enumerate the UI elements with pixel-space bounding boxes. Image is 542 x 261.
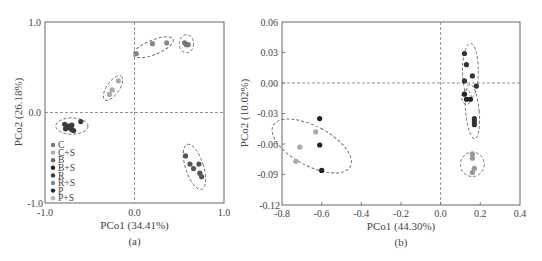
x-axis-label-a: PCo1 (34.41%) — [100, 219, 169, 232]
data-point — [183, 153, 188, 158]
legend-marker — [51, 158, 55, 162]
data-point — [78, 119, 83, 124]
points-b — [293, 51, 479, 175]
data-point — [317, 142, 322, 147]
confidence-ellipse — [463, 84, 481, 140]
data-point — [470, 156, 475, 161]
chart-b: 0.06 0.03 0.00 -0.03 -0.06 -0.09 -0.12 -… — [238, 17, 526, 250]
data-point — [472, 122, 477, 127]
data-point — [69, 123, 74, 128]
y-ticks-a: 1.0 0.0 -1.0 — [27, 17, 43, 209]
legend-marker — [51, 196, 55, 200]
data-point — [464, 62, 469, 67]
data-point — [462, 78, 467, 83]
legend-marker — [51, 188, 55, 192]
x-tick: -0.6 — [314, 208, 330, 219]
data-point — [297, 144, 302, 149]
data-point — [191, 166, 196, 171]
x-tick: 0.4 — [514, 208, 527, 219]
points-a — [62, 40, 204, 179]
data-point — [474, 83, 479, 88]
data-point — [293, 159, 298, 164]
caption-a: (a) — [128, 235, 141, 248]
y-axis-label-b: PCo2 (10.02%) — [238, 78, 251, 147]
x-tick: -0.4 — [353, 208, 369, 219]
confidence-ellipse — [131, 33, 176, 63]
legend-marker — [51, 173, 55, 177]
y-tick: 0.06 — [261, 17, 279, 28]
x-tick: 1.0 — [218, 207, 231, 218]
y-tick: -0.03 — [257, 108, 278, 119]
y-tick: 1.0 — [29, 17, 42, 28]
data-point — [186, 42, 191, 47]
data-point — [199, 174, 204, 179]
legend-marker — [51, 143, 55, 147]
x-tick: -1.0 — [37, 207, 53, 218]
y-tick: 0.0 — [29, 107, 42, 118]
y-ticks-b: 0.06 0.03 0.00 -0.03 -0.06 -0.09 -0.12 — [257, 17, 280, 211]
chart-a: 1.0 0.0 -1.0 -1.0 0.0 1.0 PCo1 (34.41%) … — [12, 17, 230, 248]
figure: 1.0 0.0 -1.0 -1.0 0.0 1.0 PCo1 (34.41%) … — [0, 0, 542, 261]
data-point — [116, 78, 121, 83]
y-tick: 0.00 — [261, 78, 279, 89]
data-point — [187, 161, 192, 166]
y-tick: -0.09 — [257, 169, 278, 180]
data-point — [134, 51, 139, 56]
y-tick: 0.03 — [261, 47, 279, 58]
x-tick: 0.2 — [474, 208, 487, 219]
legend-a: CC+SBB+SRR+SPP+S — [51, 140, 75, 203]
data-point — [319, 168, 324, 173]
caption-b: (b) — [395, 236, 408, 249]
x-axis-label-b: PCo1 (44.30%) — [367, 220, 436, 233]
y-axis-label-a: PCo2 (26.18%) — [12, 77, 25, 146]
x-ticks-b: -0.8 -0.6 -0.4 -0.2 0.0 0.2 0.4 — [274, 208, 526, 219]
data-point — [107, 92, 112, 97]
data-point — [110, 87, 115, 92]
legend-marker — [51, 181, 55, 185]
data-point — [462, 92, 467, 97]
legend-marker — [51, 166, 55, 170]
data-point — [196, 161, 201, 166]
data-point — [164, 40, 169, 45]
confidence-ellipse — [264, 108, 360, 184]
y-tick: -0.06 — [257, 139, 278, 150]
x-tick: -0.2 — [393, 208, 409, 219]
data-point — [468, 97, 473, 102]
x-tick: 0.0 — [128, 207, 141, 218]
data-point — [317, 116, 322, 121]
data-point — [313, 129, 318, 134]
data-point — [69, 127, 74, 132]
x-tick: 0.0 — [434, 208, 447, 219]
data-point — [462, 51, 467, 56]
data-point — [470, 170, 475, 175]
legend-marker — [51, 150, 55, 154]
data-point — [150, 41, 155, 46]
legend-label: P+S — [58, 193, 74, 203]
plot-frame-b — [282, 22, 520, 205]
x-ticks-a: -1.0 0.0 1.0 — [37, 207, 230, 218]
data-point — [470, 73, 475, 78]
ticks-b — [282, 53, 480, 206]
x-tick: -0.8 — [274, 208, 290, 219]
